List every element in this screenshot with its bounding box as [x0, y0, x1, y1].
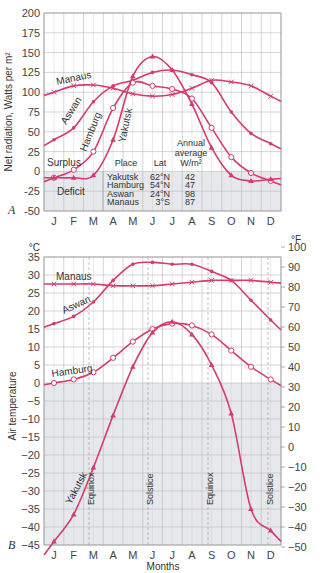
x-tick-label: M	[89, 215, 98, 227]
dot-marker-icon	[151, 71, 155, 75]
y-tick-label: 20	[28, 305, 40, 317]
y-tick-label: 10	[28, 341, 40, 353]
y-tick-label: −30	[21, 485, 40, 497]
dot-marker-icon	[72, 315, 76, 319]
dot-marker-icon	[269, 318, 273, 322]
x-tick-label: N	[247, 215, 255, 227]
label-manaus-b: Manaus	[56, 271, 92, 282]
table-header-place: Place	[115, 158, 138, 168]
dot-marker-icon	[111, 84, 115, 88]
panel-b: 35302520151050−5−10−15−20−25−30−35−40−45…	[21, 251, 281, 561]
x-tick-label: J	[51, 215, 57, 227]
circle-marker-icon	[268, 377, 273, 382]
x-tick-label: D	[267, 549, 275, 561]
x-tick-label: F	[70, 215, 77, 227]
y2-tick-label: 90	[288, 261, 300, 273]
circle-marker-icon	[209, 332, 214, 337]
label-aswan-b: Aswan	[60, 293, 92, 316]
circle-marker-icon	[248, 170, 253, 175]
x-tick-label: J	[150, 215, 156, 227]
deficit-label: Deficit	[57, 186, 85, 197]
y-tick-label: 50	[28, 126, 40, 138]
y2-tick-label: 10	[288, 421, 300, 433]
y-tick-label: −5	[27, 395, 40, 407]
circle-marker-icon	[248, 364, 253, 369]
dot-marker-icon	[92, 100, 96, 104]
table-cell-lat: 3°S	[155, 197, 170, 207]
table-cell-place: Manaus	[107, 197, 140, 207]
x-tick-label: F	[70, 549, 77, 561]
y2-tick-label: 60	[288, 321, 300, 333]
circle-marker-icon	[150, 83, 155, 88]
x-tick-label: O	[227, 215, 236, 227]
circle-marker-icon	[229, 348, 234, 353]
dot-marker-icon	[52, 322, 56, 326]
y2-tick-label: 70	[288, 301, 300, 313]
label-yakutsk-a: Yakutsk	[116, 106, 134, 143]
x-tick-label: A	[109, 215, 117, 227]
unit-celsius: °C	[29, 242, 40, 253]
y2-tick-label: 30	[288, 381, 300, 393]
circle-marker-icon	[209, 125, 214, 130]
annual-average-table: PlaceLatAnnualaverageW/m²Yakutsk62°N42Ha…	[103, 138, 207, 211]
y-tick-label: −40	[21, 521, 40, 533]
circle-marker-icon	[111, 105, 116, 110]
y-tick-label: 150	[22, 47, 40, 59]
circle-marker-icon	[130, 339, 135, 344]
dot-marker-icon	[151, 261, 155, 265]
x-axis-title-b: Months	[147, 561, 180, 572]
dot-marker-icon	[52, 138, 56, 142]
dot-marker-icon	[249, 132, 253, 136]
y-tick-label: 15	[28, 323, 40, 335]
dot-marker-icon	[72, 126, 76, 130]
table-header-avg: average	[175, 148, 208, 158]
y-tick-label: −20	[21, 449, 40, 461]
x-tick-label: O	[227, 549, 236, 561]
table-cell-avg: 87	[185, 197, 195, 207]
x-tick-label: M	[128, 215, 137, 227]
circle-marker-icon	[91, 149, 96, 154]
y-tick-label: 25	[28, 146, 40, 158]
dot-marker-icon	[210, 81, 214, 85]
y2-tick-label: 80	[288, 281, 300, 293]
y-tick-label: −35	[21, 503, 40, 515]
annotation-solstice: Solstice	[145, 473, 155, 505]
y2-tick-label: 0	[288, 441, 294, 453]
y2-tick-label: 50	[288, 341, 300, 353]
x-tick-label: J	[51, 549, 57, 561]
y-tick-label: 75	[28, 106, 40, 118]
climate-chart: 2001751501251007550250-25-50JFMAMJJASOND…	[0, 0, 320, 573]
y2-tick-label: −20	[288, 481, 307, 493]
table-header-avg: Annual	[177, 138, 205, 148]
dot-marker-icon	[249, 298, 253, 302]
y-axis-title-b: Air temperature	[7, 371, 18, 440]
y2-tick-label: 40	[288, 361, 300, 373]
x-tick-label: A	[109, 549, 117, 561]
y-tick-label: 0	[34, 377, 40, 389]
annotation-equinox: Equinox	[205, 472, 215, 505]
y-tick-label: 175	[22, 27, 40, 39]
surplus-label: Surplus	[47, 157, 81, 168]
circle-marker-icon	[189, 323, 194, 328]
dot-marker-icon	[230, 110, 234, 114]
y-tick-label: −10	[21, 413, 40, 425]
table-header-lat: Lat	[154, 158, 167, 168]
x-tick-label: A	[188, 549, 196, 561]
circle-marker-icon	[229, 155, 234, 160]
circle-marker-icon	[170, 86, 175, 91]
y-tick-label: -50	[24, 205, 40, 217]
y-tick-label: 200	[22, 7, 40, 19]
x-tick-label: J	[169, 215, 175, 227]
y2-tick-label: −30	[288, 501, 307, 513]
dot-marker-icon	[230, 279, 234, 283]
panel-b-label: B	[8, 538, 16, 552]
dot-marker-icon	[190, 73, 194, 77]
x-tick-label: J	[169, 549, 175, 561]
x-tick-label: M	[128, 549, 137, 561]
panel-a-label: A	[7, 203, 16, 217]
y-tick-label: -25	[24, 185, 40, 197]
dot-marker-icon	[170, 262, 174, 266]
y-tick-label: 25	[28, 287, 40, 299]
circle-marker-icon	[71, 377, 76, 382]
annotation-equinox: Equinox	[86, 472, 96, 505]
